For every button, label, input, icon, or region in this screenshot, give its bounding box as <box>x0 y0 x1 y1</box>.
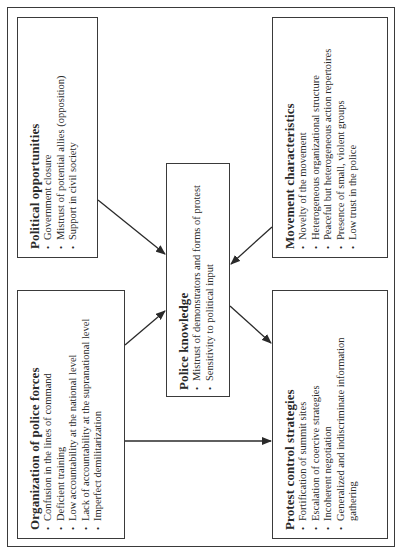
arrows-layer <box>0 0 406 560</box>
arrow-knowledge-to-strategies <box>230 306 271 343</box>
arrow-political-to-knowledge <box>98 200 165 254</box>
arrow-organization-to-knowledge <box>125 311 165 345</box>
arrow-movement-to-knowledge <box>231 227 272 264</box>
